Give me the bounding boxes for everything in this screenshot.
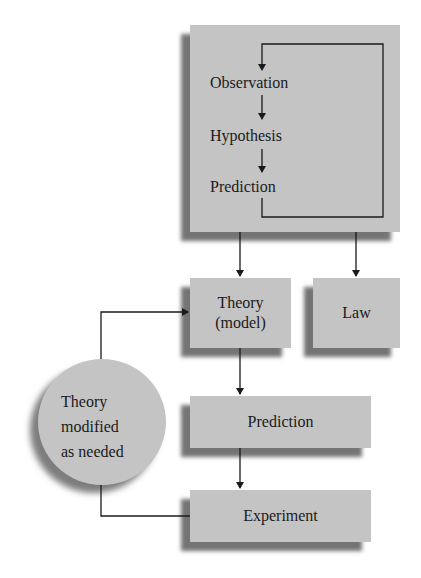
connector-lines bbox=[0, 0, 421, 578]
line-experiment-circle bbox=[101, 485, 190, 516]
arrow-circle-theory bbox=[101, 312, 188, 359]
feedback-loop-arrow bbox=[262, 44, 383, 217]
